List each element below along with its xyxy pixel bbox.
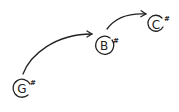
- arrow-b-sharp-to-c-sharp: [107, 14, 146, 29]
- note-letter: C: [152, 18, 160, 32]
- sharp-symbol: #: [164, 15, 170, 23]
- arrow-g-sharp-to-b-sharp: [23, 34, 92, 74]
- note-c-sharp: C #: [148, 15, 170, 32]
- diagram-svg: G # B # C #: [0, 0, 179, 112]
- sharp-symbol: #: [30, 79, 36, 87]
- note-b-sharp: B #: [96, 36, 119, 54]
- note-g-sharp: G #: [13, 79, 36, 97]
- note-letter: B: [100, 39, 108, 53]
- note-progression-diagram: G # B # C #: [0, 0, 179, 112]
- sharp-symbol: #: [113, 37, 119, 45]
- note-letter: G: [17, 82, 26, 96]
